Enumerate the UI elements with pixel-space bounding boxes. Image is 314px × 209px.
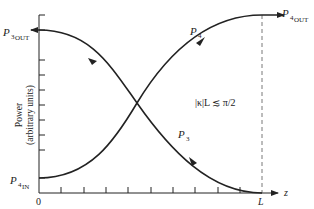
x-axis bbox=[39, 187, 278, 193]
coupling-condition-text: |κ|L ≲ π/2 bbox=[195, 97, 236, 108]
svg-text:P: P bbox=[189, 25, 197, 37]
p4-in-label: P 4 IN bbox=[9, 174, 29, 191]
p4-curve-label: P 4 bbox=[189, 25, 202, 40]
length-L-label: L bbox=[257, 196, 264, 207]
svg-text:P: P bbox=[9, 174, 17, 186]
svg-text:4: 4 bbox=[198, 32, 202, 40]
p4-forward-power-curve bbox=[39, 15, 284, 178]
p3-curve-label: P 3 bbox=[177, 128, 190, 143]
p3-direction-arrow-icon-upper bbox=[88, 58, 97, 65]
svg-text:OUT: OUT bbox=[15, 34, 30, 42]
svg-text:3: 3 bbox=[186, 135, 190, 143]
x-axis-ticks bbox=[61, 187, 240, 193]
y-axis-ticks bbox=[39, 15, 45, 178]
svg-text:P: P bbox=[281, 7, 289, 19]
p4-out-label: P 4 OUT bbox=[281, 7, 309, 24]
svg-text:Power: Power bbox=[14, 102, 24, 127]
svg-text:P: P bbox=[177, 128, 185, 140]
svg-text:(arbitrary units): (arbitrary units) bbox=[25, 85, 36, 145]
svg-text:OUT: OUT bbox=[294, 16, 309, 24]
origin-label: 0 bbox=[36, 196, 41, 207]
y-axis-label: Power (arbitrary units) bbox=[14, 85, 36, 145]
svg-text:P: P bbox=[2, 26, 10, 38]
coupled-mode-power-diagram: P 3 OUT P 4 IN P 4 OUT P 4 P 3 |κ|L ≲ π/… bbox=[0, 0, 314, 209]
p3-out-label: P 3 OUT bbox=[2, 26, 30, 42]
y-axis bbox=[39, 15, 45, 193]
p3-backward-power-curve bbox=[31, 30, 262, 193]
svg-text:IN: IN bbox=[22, 183, 29, 191]
z-axis-label: z bbox=[283, 187, 288, 198]
